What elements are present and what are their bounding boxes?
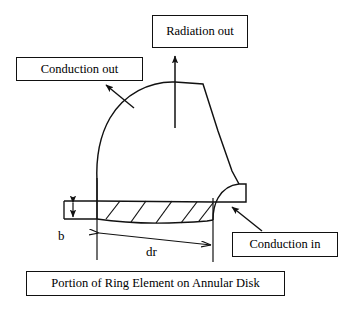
hatch-line bbox=[156, 201, 172, 223]
callout-conduction-out-label: Conduction out bbox=[41, 63, 118, 76]
band-bottom-edge bbox=[97, 219, 213, 223]
dome-right-edge bbox=[175, 82, 239, 184]
diagonal-arrow-up-left-icon bbox=[232, 207, 262, 231]
callout-conduction-in[interactable]: Conduction in bbox=[232, 232, 338, 257]
diagram-canvas: Radiation out Conduction out Conduction … bbox=[0, 0, 346, 318]
disk-body-outline bbox=[97, 82, 239, 201]
hatch-line bbox=[131, 201, 146, 222]
hatch-line bbox=[106, 201, 120, 219]
dimension-label-thickness: b bbox=[58, 229, 65, 242]
band-hatching bbox=[106, 201, 213, 223]
figure-caption-label: Portion of Ring Element on Annular Disk bbox=[51, 277, 259, 290]
callout-conduction-out[interactable]: Conduction out bbox=[16, 57, 143, 81]
callout-radiation-out-label: Radiation out bbox=[166, 25, 234, 38]
figure-caption-box: Portion of Ring Element on Annular Disk bbox=[26, 271, 285, 296]
dome-left-arc bbox=[97, 82, 175, 201]
callout-conduction-in-label: Conduction in bbox=[249, 238, 320, 251]
conduction-in-arrow bbox=[232, 207, 262, 231]
callout-radiation-out[interactable]: Radiation out bbox=[152, 15, 248, 48]
left-thickness-stub bbox=[64, 201, 97, 219]
band-top-edge bbox=[97, 201, 213, 202]
hatch-line bbox=[199, 203, 213, 221]
hatch-line bbox=[181, 202, 197, 223]
dimension-label-radial: dr bbox=[146, 245, 157, 258]
